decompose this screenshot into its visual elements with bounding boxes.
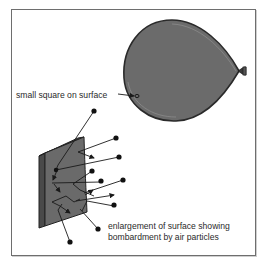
- balloon-knot-icon: [238, 67, 246, 75]
- enlargement-label: enlargement of surface showing bombardme…: [108, 221, 230, 242]
- enlargement-label-line1: enlargement of surface showing: [108, 221, 230, 232]
- balloon: [124, 20, 239, 121]
- small-square-label: small square on surface: [16, 90, 107, 101]
- enlargement-label-line2: bombardment by air particles: [108, 232, 230, 243]
